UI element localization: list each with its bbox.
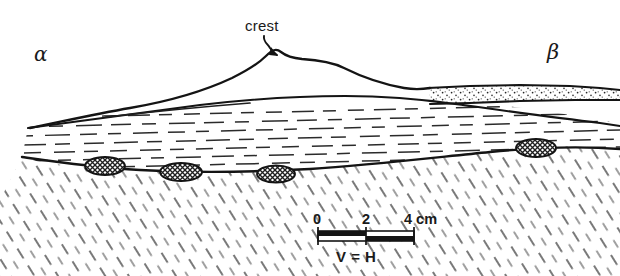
clast [516,139,556,157]
crest-label: crest [245,18,279,33]
internal-surface-segment [106,103,250,117]
upper-bedform-surface [30,50,430,128]
crest-pointer-arrow [264,36,278,56]
vertical-exaggeration-note: V = H [336,249,376,264]
scale-tick-label-2: 2 [362,212,370,227]
flank-label-alpha: α [34,44,48,64]
clast [257,166,295,183]
clast [85,157,125,175]
clast [160,163,202,181]
geologic-cross-section-figure: α β crest 0 2 4 cm V = H [0,0,620,276]
scale-tick-label-4: 4 cm [404,212,437,227]
cross-section-drawing [0,0,620,276]
stippled-lens [420,80,620,112]
scale-tick-label-0: 0 [313,212,321,227]
flank-label-beta: β [547,42,559,63]
